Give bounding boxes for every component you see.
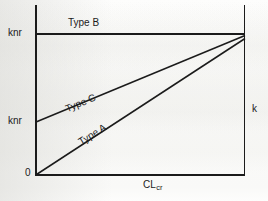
y-axis-label-knr-lower: knr	[8, 116, 22, 126]
x-axis-label-main: CL	[143, 179, 156, 190]
series-label-type-b: Type B	[68, 18, 99, 28]
x-axis-label: CLcr	[143, 180, 162, 190]
origin-label: 0	[25, 168, 31, 178]
x-axis-label-subscript: cr	[156, 183, 162, 192]
right-axis-label-k: k	[252, 104, 257, 114]
figure-canvas: knr knr 0 k CLcr Type B Type C Type A	[0, 0, 268, 201]
plot-area	[0, 0, 268, 201]
y-axis-label-knr-upper: knr	[8, 28, 22, 38]
